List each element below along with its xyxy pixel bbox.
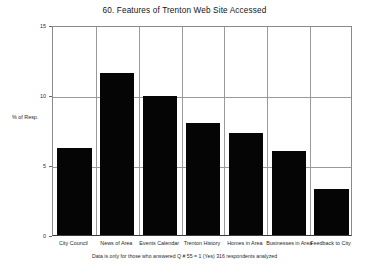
bar-slot: [139, 27, 182, 235]
bar: [143, 96, 177, 235]
y-tick-label: 15: [16, 23, 46, 29]
bar: [229, 133, 263, 235]
chart-annotation: Data is only for those who answered Q # …: [0, 253, 369, 259]
bar-slot: [96, 27, 139, 235]
y-tick-label: 0: [16, 233, 46, 239]
x-tick-label: Businesses in Area: [266, 240, 309, 246]
x-tick-label: Trenton History: [181, 240, 224, 246]
bar-slot: [267, 27, 310, 235]
y-tick-label: 5: [16, 163, 46, 169]
bar-slot: [182, 27, 225, 235]
x-tick-label: Feedback to City: [309, 240, 352, 246]
y-tick-label: 10: [16, 93, 46, 99]
chart-title: 60. Features of Trenton Web Site Accesse…: [0, 6, 369, 15]
x-tick-label: Homes in Area: [223, 240, 266, 246]
bar-series: [53, 27, 351, 235]
bar-slot: [224, 27, 267, 235]
chart-figure: 60. Features of Trenton Web Site Accesse…: [0, 0, 369, 273]
bar: [186, 123, 220, 235]
x-tick-label: Events Calendar: [138, 240, 181, 246]
x-tick-label: City Council: [52, 240, 95, 246]
bar: [314, 189, 348, 235]
bar-slot: [53, 27, 96, 235]
y-tick-mark: [49, 236, 52, 237]
plot-area: [52, 26, 352, 236]
bar: [57, 148, 91, 235]
bar-slot: [310, 27, 353, 235]
x-tick-label: News of Area: [95, 240, 138, 246]
bar: [272, 151, 306, 235]
bar: [100, 73, 134, 235]
y-axis-label: % of Resp.: [12, 114, 38, 120]
